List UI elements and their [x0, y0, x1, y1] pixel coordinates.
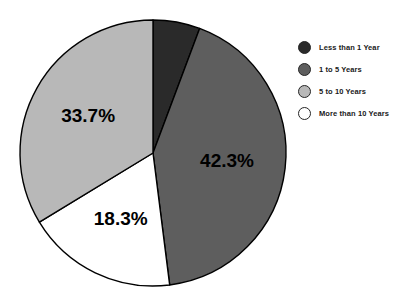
- legend-item[interactable]: 5 to 10 Years: [298, 82, 408, 100]
- legend-swatch-icon: [298, 85, 311, 98]
- legend-item-label: More than 10 Years: [319, 109, 389, 118]
- pie-slice-value-label: 42.3%: [200, 150, 254, 171]
- legend-item-label: 1 to 5 Years: [319, 65, 362, 74]
- legend-swatch-icon: [298, 41, 311, 54]
- chart-legend: Less than 1 Year1 to 5 Years5 to 10 Year…: [298, 38, 408, 126]
- legend-swatch-icon: [298, 107, 311, 120]
- pie-slice-value-label: 18.3%: [94, 208, 148, 229]
- legend-item-label: Less than 1 Year: [319, 43, 380, 52]
- legend-item[interactable]: More than 10 Years: [298, 104, 408, 122]
- legend-item[interactable]: 1 to 5 Years: [298, 60, 408, 78]
- legend-item[interactable]: Less than 1 Year: [298, 38, 408, 56]
- pie-chart: 42.3%18.3%33.7% Less than 1 Year1 to 5 Y…: [0, 0, 410, 306]
- legend-item-label: 5 to 10 Years: [319, 87, 366, 96]
- legend-swatch-icon: [298, 63, 311, 76]
- pie-slice-value-label: 33.7%: [61, 105, 115, 126]
